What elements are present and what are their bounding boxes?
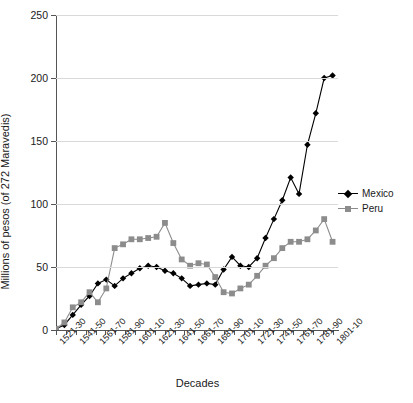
x-axis-tick-labels: 1521-301541-501561-701581-901601-101621-… (56, 338, 386, 378)
data-point-peru (56, 326, 59, 330)
data-point-peru (330, 239, 336, 245)
y-tick-mark (51, 15, 56, 16)
data-point-mexico (128, 270, 134, 276)
data-point-mexico (304, 142, 310, 148)
data-point-peru (120, 241, 126, 247)
data-point-mexico (95, 280, 101, 286)
y-tick-mark (51, 78, 56, 79)
data-point-peru (237, 286, 243, 292)
data-point-peru (95, 299, 101, 305)
data-point-mexico (271, 216, 277, 222)
data-point-peru (221, 289, 227, 295)
data-point-peru (70, 304, 76, 310)
data-point-peru (61, 320, 67, 326)
data-point-peru (305, 236, 311, 242)
x-axis-title: Decades (56, 377, 339, 389)
y-tick-label: 250 (8, 10, 48, 20)
data-point-peru (288, 239, 294, 245)
data-point-peru (254, 273, 260, 279)
gridline (56, 141, 338, 142)
data-point-peru (137, 236, 143, 242)
x-tick-mark (56, 331, 57, 335)
y-tick-mark (51, 141, 56, 142)
legend-item-peru[interactable]: Peru (338, 201, 394, 216)
data-point-peru (212, 274, 218, 280)
series-layer (56, 15, 338, 330)
data-point-peru (279, 245, 285, 251)
data-point-peru (78, 299, 84, 305)
data-point-peru (313, 228, 319, 234)
data-point-peru (321, 216, 327, 222)
data-point-peru (170, 240, 176, 246)
data-point-peru (103, 286, 109, 292)
data-point-mexico (296, 191, 302, 197)
diamond-marker-icon (344, 189, 352, 197)
legend-swatch-mexico (338, 193, 358, 194)
data-point-mexico (162, 268, 168, 274)
legend-swatch-peru (338, 208, 358, 209)
gridline (56, 204, 338, 205)
y-tick-label: 150 (8, 136, 48, 146)
gridline (56, 78, 338, 79)
plot-area: 050100150200250 (56, 15, 338, 330)
y-tick-label: 200 (8, 73, 48, 83)
legend-label: Mexico (362, 187, 394, 200)
data-point-peru (162, 220, 168, 226)
gridline (56, 15, 338, 16)
square-marker-icon (345, 206, 351, 212)
data-point-mexico (279, 197, 285, 203)
data-point-peru (196, 260, 202, 266)
series-line-mexico (56, 75, 333, 328)
y-tick-mark (51, 267, 56, 268)
data-point-peru (112, 245, 118, 251)
data-point-peru (154, 234, 160, 240)
y-tick-label: 100 (8, 199, 48, 209)
legend-item-mexico[interactable]: Mexico (338, 186, 394, 201)
y-tick-label: 0 (8, 325, 48, 335)
data-point-peru (129, 236, 135, 242)
y-tick-mark (51, 204, 56, 205)
legend-label: Peru (362, 202, 383, 215)
data-point-peru (229, 291, 235, 297)
data-point-peru (179, 257, 185, 263)
data-point-peru (246, 282, 252, 288)
data-point-peru (145, 235, 151, 241)
data-point-mexico (287, 174, 293, 180)
data-point-mexico (170, 270, 176, 276)
data-point-mexico (204, 280, 210, 286)
data-point-mexico (195, 281, 201, 287)
data-point-peru (87, 289, 93, 295)
y-tick-label: 50 (8, 262, 48, 272)
data-point-peru (271, 255, 277, 261)
gridline (56, 267, 338, 268)
data-point-mexico (313, 110, 319, 116)
data-point-peru (296, 239, 302, 245)
data-point-mexico (262, 235, 268, 241)
line-chart: Millions of pesos (of 272 Maravedis) 050… (0, 0, 413, 403)
series-line-peru (56, 219, 333, 329)
data-point-mexico (212, 281, 218, 287)
chart-legend: MexicoPeru (338, 186, 394, 216)
